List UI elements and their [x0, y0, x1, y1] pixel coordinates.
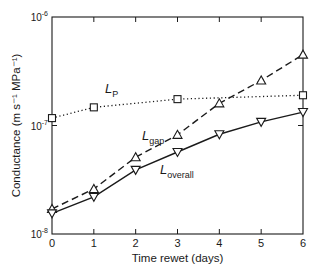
- x-tick-label: 3: [174, 237, 180, 249]
- square-marker-icon: [300, 92, 307, 99]
- square-marker-icon: [174, 96, 181, 103]
- x-tick-label: 0: [49, 237, 55, 249]
- y-tick-label: 10-6: [31, 10, 48, 23]
- triangle-up-marker-icon: [173, 130, 182, 138]
- axis-labels: 012345610-810-710-6Time rewet (days)Cond…: [10, 10, 306, 264]
- square-marker-icon: [49, 115, 56, 122]
- plot-axes: [52, 17, 303, 234]
- triangle-up-marker-icon: [215, 99, 224, 107]
- series-label-overall: Loverall: [160, 162, 194, 180]
- series-label-gap: Lgap: [142, 128, 164, 146]
- y-axis-title: Conductance (m s⁻¹ MPa⁻¹): [10, 54, 22, 198]
- x-tick-label: 6: [300, 237, 306, 249]
- x-tick-label: 1: [91, 237, 97, 249]
- triangle-down-marker-icon: [131, 166, 140, 174]
- triangle-up-marker-icon: [89, 184, 98, 192]
- triangle-down-marker-icon: [173, 148, 182, 156]
- y-tick-label: 10-7: [31, 119, 48, 132]
- triangle-up-marker-icon: [131, 153, 140, 161]
- triangle-up-marker-icon: [299, 50, 308, 58]
- x-tick-label: 4: [216, 237, 222, 249]
- conductance-chart: 012345610-810-710-6Time rewet (days)Cond…: [0, 0, 315, 271]
- square-marker-icon: [90, 104, 97, 111]
- plot-frame: [52, 17, 303, 234]
- triangle-down-marker-icon: [215, 131, 224, 139]
- series-line-overall: [52, 112, 303, 213]
- x-tick-label: 2: [133, 237, 139, 249]
- triangle-up-marker-icon: [257, 76, 266, 84]
- series-label-P: LP: [105, 81, 118, 99]
- triangle-down-marker-icon: [48, 210, 57, 218]
- y-tick-label: 10-8: [31, 227, 48, 240]
- x-tick-label: 5: [258, 237, 264, 249]
- x-axis-title: Time rewet (days): [132, 252, 224, 264]
